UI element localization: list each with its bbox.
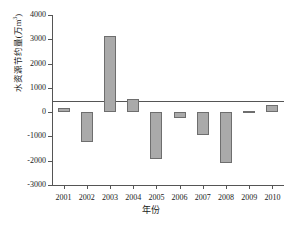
bar xyxy=(243,111,255,113)
x-axis-title: 年份 xyxy=(0,203,302,216)
bar xyxy=(127,99,139,112)
bar xyxy=(104,36,116,113)
bar xyxy=(197,112,209,135)
x-tick-mark xyxy=(133,185,134,189)
y-tick-mark xyxy=(48,88,52,89)
y-tick-label: 1000 xyxy=(6,84,46,92)
bar xyxy=(58,108,70,112)
bar xyxy=(220,112,232,163)
y-tick-label: 2000 xyxy=(6,60,46,68)
x-tick-mark xyxy=(249,185,250,189)
x-tick-mark xyxy=(156,185,157,189)
y-tick-mark xyxy=(48,15,52,16)
x-tick-label: 2010 xyxy=(257,193,287,202)
y-tick-mark xyxy=(48,39,52,40)
x-tick-mark xyxy=(110,185,111,189)
x-tick-mark xyxy=(226,185,227,189)
bar xyxy=(81,112,93,142)
y-tick-label: -1000 xyxy=(6,132,46,140)
plot-area: 40003000200010000-1000-2000-3000 2001200… xyxy=(52,15,284,185)
y-tick-mark xyxy=(48,136,52,137)
y-tick-label: 0 xyxy=(6,108,46,116)
zero-baseline xyxy=(52,101,284,102)
y-tick-label: -2000 xyxy=(6,157,46,165)
y-tick-mark xyxy=(48,112,52,113)
y-tick-label: 3000 xyxy=(6,35,46,43)
y-tick-mark xyxy=(48,161,52,162)
bar-chart-figure: 水资源节约量(万m3) 40003000200010000-1000-2000-… xyxy=(0,0,302,226)
x-tick-mark xyxy=(180,185,181,189)
y-tick-mark xyxy=(48,64,52,65)
x-tick-mark xyxy=(87,185,88,189)
bar xyxy=(266,105,278,112)
x-tick-mark xyxy=(64,185,65,189)
y-axis-line xyxy=(52,15,53,185)
y-tick-label: -3000 xyxy=(6,181,46,189)
y-axis-title-main: 水资源节约量(万m xyxy=(13,20,23,92)
y-tick-mark xyxy=(48,185,52,186)
x-tick-mark xyxy=(272,185,273,189)
bar xyxy=(150,112,162,159)
bar xyxy=(174,112,186,118)
x-tick-mark xyxy=(203,185,204,189)
y-tick-label: 4000 xyxy=(6,11,46,19)
